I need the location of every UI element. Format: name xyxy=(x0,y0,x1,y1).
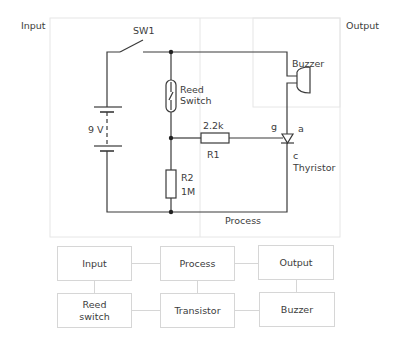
input-region-label: Input xyxy=(21,20,46,31)
r2-label: R2 xyxy=(181,172,194,183)
r1-resistor-icon xyxy=(201,133,229,143)
thyristor-anode-label: a xyxy=(298,123,304,134)
r1-value-label: 2.2k xyxy=(203,120,224,131)
block-reed-switch: Reed switch xyxy=(57,293,132,328)
wires xyxy=(94,40,310,212)
block-reed-switch-label: Reed switch xyxy=(79,299,109,323)
output-region-label: Output xyxy=(346,20,379,31)
left-wire-bottom xyxy=(107,143,287,212)
block-input-label: Input xyxy=(82,258,107,270)
switch-sw1-icon xyxy=(120,40,143,52)
r2-value-label: 1M xyxy=(181,186,195,197)
r2-resistor-icon xyxy=(166,170,176,198)
connector-process-output xyxy=(235,263,258,264)
block-output-label: Output xyxy=(280,257,313,269)
left-wire-top xyxy=(107,52,120,107)
connector-input-process xyxy=(132,263,160,264)
connector-process-transistor xyxy=(197,281,198,293)
connector-reed-transistor xyxy=(132,310,160,311)
top-wire xyxy=(143,52,297,76)
thyristor-label: Thyristor xyxy=(293,162,335,173)
block-transistor: Transistor xyxy=(160,293,235,328)
battery-label: 9 V xyxy=(88,124,104,135)
reed-switch-icon xyxy=(166,80,176,112)
block-process: Process xyxy=(160,246,235,281)
buzzer-return-wire xyxy=(287,83,297,134)
process-region-label: Process xyxy=(225,215,261,226)
buzzer-icon xyxy=(297,67,310,93)
connector-transistor-buzzer xyxy=(235,310,259,311)
thyristor-gate-label: g xyxy=(271,121,277,132)
sw1-label: SW1 xyxy=(133,25,154,36)
buzzer-label: Buzzer xyxy=(292,58,324,69)
block-process-label: Process xyxy=(179,258,215,270)
reed-switch-label: Reed Switch xyxy=(180,84,211,106)
block-buzzer-label: Buzzer xyxy=(281,304,313,316)
r1-label: R1 xyxy=(207,149,220,160)
block-output: Output xyxy=(258,245,334,280)
connector-input-reed xyxy=(94,281,95,293)
thyristor-cathode-label: c xyxy=(293,150,298,161)
connector-output-buzzer xyxy=(296,280,297,292)
block-transistor-label: Transistor xyxy=(174,305,220,317)
block-input: Input xyxy=(57,246,132,281)
block-buzzer: Buzzer xyxy=(259,292,335,327)
